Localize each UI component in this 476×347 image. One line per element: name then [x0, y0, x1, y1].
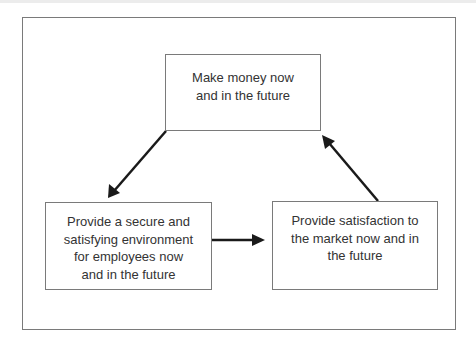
node-text-line: and in the future: [46, 266, 211, 284]
node-text-line: and in the future: [166, 87, 320, 105]
node-text-line: the future: [273, 247, 437, 265]
node-text-line: for employees now: [46, 248, 211, 266]
arrow-right-to-top: [322, 135, 378, 201]
arrows-layer: [0, 0, 476, 347]
arrow-left-to-right: [212, 234, 265, 246]
node-text-line: satisfying environment: [46, 231, 211, 249]
node-text-line: Provide a secure and: [46, 213, 211, 231]
node-text-line: Make money now: [166, 69, 320, 87]
node-text-line: Provide satisfaction to: [273, 212, 437, 230]
node-text-line: the market now and in: [273, 230, 437, 248]
node-employee-environment: Provide a secure and satisfying environm…: [45, 202, 212, 290]
node-make-money: Make money now and in the future: [165, 54, 321, 131]
arrow-top-to-left: [108, 131, 166, 198]
node-market-satisfaction: Provide satisfaction to the market now a…: [272, 201, 438, 290]
